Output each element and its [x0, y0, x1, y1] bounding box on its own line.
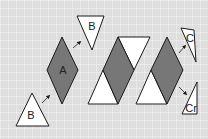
triangle-c-label: C	[186, 32, 194, 44]
triangle-b-top-label: B	[88, 20, 95, 32]
triangle-b-bottom-label: B	[27, 109, 34, 121]
triangle-cr-label: Cr	[185, 102, 197, 114]
tiling-diagram: A B B C	[0, 0, 208, 139]
diagram-canvas: A B B C	[0, 0, 208, 139]
rhombus-a-label: A	[59, 64, 67, 76]
